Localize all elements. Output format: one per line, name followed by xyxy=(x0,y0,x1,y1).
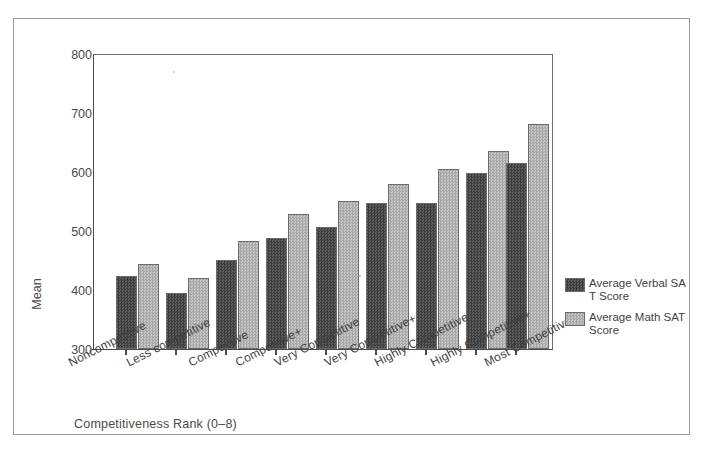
bar-math[interactable] xyxy=(138,264,159,349)
bar-group xyxy=(116,55,160,349)
y-tick-label-600: 600 xyxy=(71,167,92,179)
x-tick-mark xyxy=(125,350,127,355)
legend: Average Verbal SAT Score Average Math SA… xyxy=(565,277,693,345)
legend-label-verbal: Average Verbal SAT Score xyxy=(589,277,689,303)
x-tick-mark xyxy=(425,350,427,355)
legend-swatch-math-icon xyxy=(565,312,585,326)
figure-frame: 800 700 600 500 400 300 Mean xyxy=(13,18,690,435)
bar-group xyxy=(316,55,360,349)
x-tick-mark xyxy=(475,350,477,355)
legend-swatch-verbal-icon xyxy=(565,278,585,292)
y-axis-title: Mean xyxy=(30,249,44,339)
legend-item-verbal[interactable]: Average Verbal SAT Score xyxy=(565,277,693,303)
bar-group xyxy=(266,55,310,349)
y-axis: 800 700 600 500 400 300 xyxy=(54,43,92,363)
legend-label-math: Average Math SAT Score xyxy=(589,311,689,337)
bar-group xyxy=(166,55,210,349)
y-tick-label-700: 700 xyxy=(71,108,92,120)
y-tick-label-400: 400 xyxy=(71,285,92,297)
plot-area xyxy=(93,54,553,350)
x-axis-title: Competitiveness Rank (0–8) xyxy=(74,417,237,431)
bar-group xyxy=(416,55,460,349)
bar-group xyxy=(466,55,510,349)
y-tick-label-800: 800 xyxy=(71,49,92,61)
bar-group xyxy=(366,55,410,349)
bar-group xyxy=(506,55,550,349)
bar-group xyxy=(216,55,260,349)
x-tick-mark xyxy=(175,350,177,355)
legend-item-math[interactable]: Average Math SAT Score xyxy=(565,311,693,337)
figure-caption-clipped xyxy=(14,0,674,7)
y-tick-label-500: 500 xyxy=(71,226,92,238)
